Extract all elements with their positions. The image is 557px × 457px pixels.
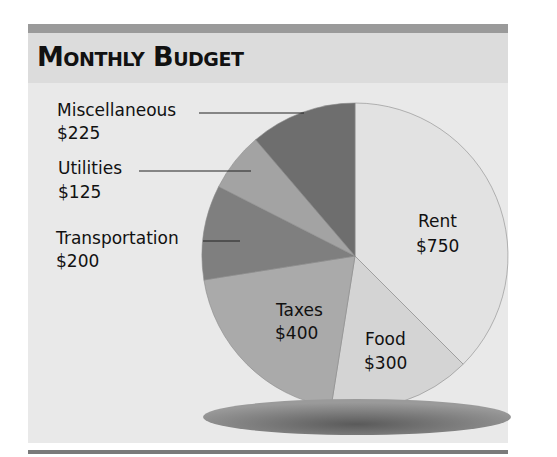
pie-shadow	[203, 399, 511, 435]
label-utilities-name: Utilities	[58, 158, 122, 178]
label-transportation-amount: $200	[56, 251, 99, 271]
label-food-name: Food	[365, 329, 406, 349]
label-taxes-name: Taxes	[275, 300, 323, 320]
pie-slices	[202, 103, 508, 409]
label-miscellaneous-amount: $225	[57, 123, 100, 143]
label-taxes-amount: $400	[275, 323, 318, 343]
label-food-amount: $300	[364, 353, 407, 373]
label-miscellaneous-name: Miscellaneous	[57, 100, 176, 120]
label-utilities-amount: $125	[58, 182, 101, 202]
label-rent-name: Rent	[418, 211, 457, 231]
label-rent-amount: $750	[416, 236, 459, 256]
pie-chart: Miscellaneous $225 Utilities $125 Transp…	[0, 0, 557, 457]
label-transportation-name: Transportation	[55, 228, 179, 248]
